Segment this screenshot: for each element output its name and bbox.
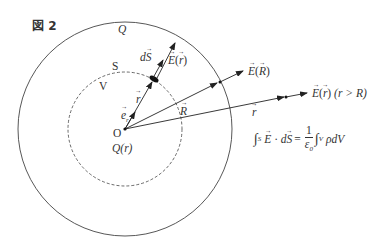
unit-vector-label: er [121, 110, 129, 124]
origin-label: O [113, 128, 121, 140]
outside-condition: (r > R) [334, 87, 367, 99]
dot-operator: · [274, 133, 278, 145]
formula-rhs: ρdV [326, 133, 344, 145]
E-vector-symbol-2: E [248, 66, 255, 78]
surface-label: S [112, 61, 118, 73]
gauss-law-figure: 図 2 Q S V er r dS E(r) R E(R) r E(r) (r … [0, 0, 382, 249]
E-outside-label: E(r) (r > R) [312, 88, 367, 100]
unit-vector-subscript: r [126, 116, 129, 124]
dS-label: dS [140, 52, 152, 64]
r-vector-label: r [136, 94, 140, 106]
fraction: 1 ε0 [305, 124, 313, 154]
origin-point [123, 127, 126, 130]
outer-charge-label: Q [118, 24, 126, 36]
r-vector-outside-label: r [252, 107, 256, 119]
gauss-law-formula: ∫S E · dS = 1 ε0 ∫V ρdV [254, 124, 344, 154]
equals-sign: = [294, 133, 301, 145]
r-arg: r [179, 55, 183, 67]
epsilon-subscript: 0 [309, 145, 313, 153]
E-field-arrow-surface [220, 71, 243, 82]
unit-vector-symbol: e [121, 110, 126, 122]
E-of-R-label: E(R) [248, 66, 270, 78]
E-of-r-label: E(r) [168, 55, 187, 67]
formula-E: E [264, 133, 271, 145]
r-vector-symbol: r [136, 94, 140, 106]
rhs-subscript: V [319, 135, 323, 143]
E-field-arrow-outside [286, 93, 307, 97]
E-vector-symbol-3: E [312, 88, 319, 100]
E-vector-symbol: E [168, 55, 175, 67]
lhs-subscript: S [258, 135, 262, 143]
r-outside-symbol: r [252, 107, 256, 119]
volume-label: V [99, 81, 107, 93]
R-vector-symbol: R [180, 106, 187, 118]
r-arg-2: r [323, 88, 327, 100]
S-vector-symbol: S [146, 52, 152, 64]
formula-S: S [287, 133, 293, 145]
fraction-numerator: 1 [305, 124, 313, 138]
fraction-denominator: ε0 [305, 138, 313, 154]
enclosed-charge-label: Q(r) [112, 143, 132, 155]
R-vector-label: R [180, 106, 187, 118]
R-arg: R [259, 66, 266, 78]
figure-title: 図 2 [32, 16, 57, 33]
